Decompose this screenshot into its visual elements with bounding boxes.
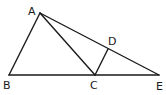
segment-ac [40,13,95,75]
segment-cd [95,49,108,75]
geometry-diagram: A B C D E [0,0,166,95]
label-point-d: D [108,35,116,48]
label-point-e: E [156,80,163,93]
label-point-a: A [28,5,36,18]
label-point-b: B [3,79,11,92]
segment-ab [9,13,40,75]
label-point-c: C [90,79,98,92]
